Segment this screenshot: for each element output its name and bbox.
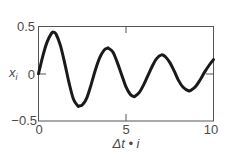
- y-axis-label-sub: i: [16, 72, 19, 82]
- y-axis-label: xi: [8, 65, 19, 82]
- plot-frame: [39, 27, 214, 122]
- y-tick-label-zero: 0: [28, 67, 35, 82]
- x-tick-label-10: 10: [204, 122, 218, 137]
- y-tick-label-bottom: −0.5: [11, 113, 37, 128]
- x-tick-label-5: 5: [122, 122, 129, 137]
- series-line: [39, 32, 214, 106]
- y-tick-label-top: 0.5: [17, 19, 35, 34]
- x-axis-label: Δt • i: [112, 136, 141, 151]
- damped-oscillation-chart: 0.5 0 −0.5 0 5 10 xi Δt • i: [0, 0, 229, 158]
- x-tick-label-0: 0: [35, 122, 42, 137]
